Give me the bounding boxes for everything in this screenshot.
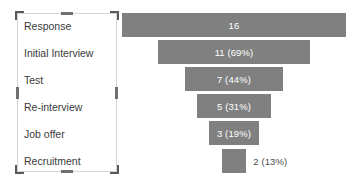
resize-handle-middle-right[interactable] (115, 87, 118, 99)
funnel-bar-label-job-offer: 3 (19%) (217, 128, 251, 139)
funnel-bar-label-test: 7 (44%) (217, 74, 251, 85)
resize-handle-bottom-left[interactable] (15, 165, 24, 174)
funnel-bar-label-response: 16 (229, 20, 240, 31)
resize-handle-bottom-center[interactable] (61, 170, 73, 173)
funnel-bar-initial-interview[interactable]: 11 (69%) (158, 40, 310, 64)
stage-label-response: Response (24, 20, 116, 32)
funnel-row-5: 3 (19%) (122, 121, 346, 145)
stage-label-initial-interview: Initial Interview (24, 47, 116, 59)
funnel-bar-label-re-interview: 5 (31%) (217, 101, 251, 112)
funnel-chart: 16 11 (69%) 7 (44%) 5 (31%) 3 (19%) 2 (1… (122, 13, 346, 175)
funnel-bar-job-offer[interactable]: 3 (19%) (209, 121, 258, 145)
resize-handle-middle-left[interactable] (16, 87, 19, 99)
stage-label-test: Test (24, 74, 116, 86)
stage-label-list: Response Initial Interview Test Re-inter… (18, 14, 116, 171)
funnel-row-4: 5 (31%) (122, 94, 346, 118)
funnel-bar-re-interview[interactable]: 5 (31%) (197, 94, 271, 118)
stage-label-re-interview: Re-interview (24, 101, 116, 113)
resize-handle-top-left[interactable] (15, 11, 24, 20)
funnel-bar-recruitment[interactable]: 2 (13%) (222, 149, 247, 173)
funnel-row-6: 2 (13%) (122, 149, 346, 173)
funnel-bar-response[interactable]: 16 (122, 13, 346, 37)
stage-label-job-offer: Job offer (24, 128, 116, 140)
stage-label-textbox[interactable]: Response Initial Interview Test Re-inter… (17, 13, 117, 172)
resize-handle-bottom-right[interactable] (110, 165, 119, 174)
funnel-row-2: 11 (69%) (122, 40, 346, 64)
funnel-row-1: 16 (122, 13, 346, 37)
funnel-bar-test[interactable]: 7 (44%) (185, 67, 284, 91)
stage-label-recruitment: Recruitment (24, 155, 116, 167)
funnel-row-3: 7 (44%) (122, 67, 346, 91)
resize-handle-top-center[interactable] (61, 12, 73, 15)
funnel-bar-label-recruitment: 2 (13%) (253, 156, 287, 167)
funnel-bar-label-initial-interview: 11 (69%) (215, 47, 254, 58)
resize-handle-top-right[interactable] (110, 11, 119, 20)
